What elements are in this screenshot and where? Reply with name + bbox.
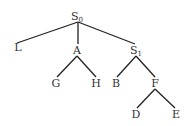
node-s1: S1 (130, 44, 142, 58)
edge-F-E (155, 89, 175, 108)
node-a: A (72, 44, 82, 57)
tree-diagram: S0 L A S1 G H B F D E (0, 0, 188, 126)
node-l: L (14, 41, 22, 54)
node-g: G (52, 77, 61, 90)
edge-root-L (17, 22, 78, 43)
nodes: S0 L A S1 G H B F D E (14, 10, 180, 121)
node-f: F (151, 77, 159, 90)
node-b: B (112, 77, 120, 90)
edge-A-G (57, 56, 77, 77)
edge-F-D (137, 89, 155, 108)
node-s0: S0 (71, 10, 83, 24)
edge-S1-B (117, 56, 136, 77)
edges (17, 22, 175, 108)
edge-A-H (77, 56, 96, 77)
edge-S1-F (136, 56, 155, 77)
node-h: H (91, 77, 101, 90)
edge-root-S1 (78, 22, 135, 44)
node-e: E (172, 108, 180, 121)
node-d: D (132, 108, 141, 121)
